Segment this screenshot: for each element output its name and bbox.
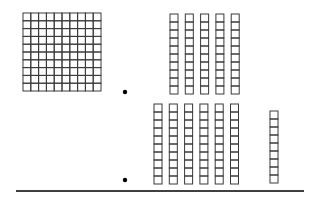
marker-dots	[123, 90, 127, 182]
rod-cell	[169, 120, 177, 128]
flat-cell	[70, 52, 78, 60]
flat-cell	[54, 36, 62, 44]
rod-cell	[215, 168, 223, 176]
rod-cell	[231, 128, 239, 136]
flat-cell	[23, 36, 31, 44]
rod-cell	[170, 86, 178, 94]
rod-cell	[154, 152, 162, 160]
rod-cell	[201, 30, 209, 38]
flat-cell	[70, 29, 78, 37]
rod-cell	[201, 86, 209, 94]
flat-cell	[85, 75, 93, 83]
flat-cell	[23, 13, 31, 21]
rod-cell	[216, 78, 224, 86]
unit-cube	[270, 167, 278, 175]
rod-cell	[185, 136, 193, 144]
rod-cell	[216, 70, 224, 78]
flat-cell	[54, 13, 62, 21]
rod-cell	[201, 14, 209, 22]
flat-cell	[93, 36, 101, 44]
flat-cell	[62, 44, 70, 52]
unit-cube	[270, 175, 278, 183]
rod-cell	[201, 38, 209, 46]
rod-cell	[185, 152, 193, 160]
unit-cube	[270, 119, 278, 127]
flat-cell	[93, 44, 101, 52]
flat-cell	[39, 13, 47, 21]
rod-cell	[185, 120, 193, 128]
rod-cell	[185, 70, 193, 78]
flat-cell	[62, 68, 70, 76]
flat-cell	[85, 52, 93, 60]
rod-cell	[169, 144, 177, 152]
flat-cell	[62, 83, 70, 91]
rod-cell	[185, 168, 193, 176]
flat-cell	[31, 75, 39, 83]
unit-cubes-column	[270, 111, 278, 183]
rod-cell	[200, 136, 208, 144]
flat-cell	[78, 83, 86, 91]
rod-cell	[231, 160, 239, 168]
flat-cell	[23, 60, 31, 68]
flat-cell	[70, 83, 78, 91]
flat-cell	[46, 83, 54, 91]
rod-cell	[170, 78, 178, 86]
flat-cell	[46, 36, 54, 44]
rod-cell	[215, 152, 223, 160]
flat-cell	[62, 75, 70, 83]
flat-cell	[78, 29, 86, 37]
rod-cell	[215, 128, 223, 136]
flat-cell	[39, 29, 47, 37]
rod-cell	[200, 160, 208, 168]
flat-cell	[93, 68, 101, 76]
rod-cell	[185, 38, 193, 46]
rod-cell	[216, 62, 224, 70]
flat-cell	[93, 21, 101, 29]
rod-cell	[170, 70, 178, 78]
rod-cell	[154, 120, 162, 128]
rod-cell	[231, 104, 239, 112]
rod-cell	[169, 128, 177, 136]
rod-cell	[185, 128, 193, 136]
rod-cell	[170, 38, 178, 46]
rod-cell	[231, 136, 239, 144]
flat-cell	[54, 75, 62, 83]
rod-cell	[216, 38, 224, 46]
rod-cell	[185, 46, 193, 54]
flat-cell	[39, 75, 47, 83]
flat-cell	[93, 13, 101, 21]
rod-cell	[154, 128, 162, 136]
flat-cell	[54, 83, 62, 91]
rod-cell	[170, 22, 178, 30]
unit-cube	[270, 111, 278, 119]
rod-cell	[170, 54, 178, 62]
rod-cell	[200, 176, 208, 184]
flat-cell	[54, 52, 62, 60]
top-tens-rods	[170, 14, 239, 94]
flat-cell	[31, 60, 39, 68]
rod-cell	[231, 30, 239, 38]
rod-cell	[154, 160, 162, 168]
flat-cell	[46, 21, 54, 29]
flat-cell	[78, 36, 86, 44]
flat-cell	[62, 60, 70, 68]
rod-cell	[169, 104, 177, 112]
rod-cell	[170, 46, 178, 54]
rod-cell	[169, 160, 177, 168]
flat-cell	[31, 13, 39, 21]
rod-cell	[215, 112, 223, 120]
flat-cell	[93, 60, 101, 68]
flat-cell	[39, 83, 47, 91]
rod-cell	[231, 168, 239, 176]
flat-cell	[78, 75, 86, 83]
flat-cell	[85, 60, 93, 68]
flat-cell	[31, 36, 39, 44]
rod-cell	[231, 14, 239, 22]
flat-cell	[23, 68, 31, 76]
rod-cell	[201, 22, 209, 30]
rod-cell	[185, 104, 193, 112]
rod-cell	[231, 120, 239, 128]
rod-cell	[154, 104, 162, 112]
rod-cell	[185, 160, 193, 168]
rod-cell	[169, 112, 177, 120]
